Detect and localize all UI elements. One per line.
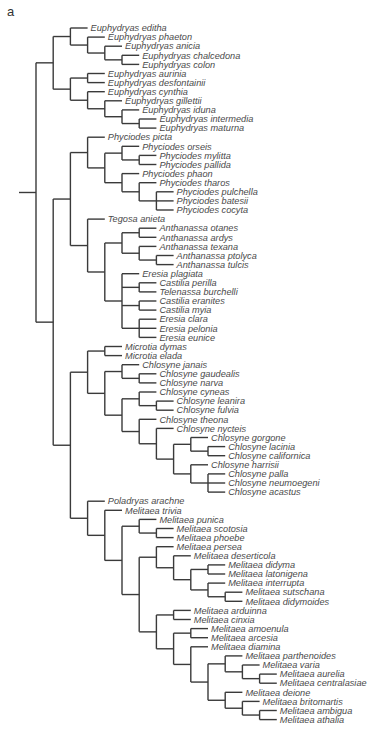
tip-labels: Euphydryas edithaEuphydryas phaetonEuphy… — [91, 23, 367, 725]
taxon-label: Melitaea athalia — [280, 715, 344, 725]
taxon-label: Phyciodes cocyta — [177, 205, 249, 215]
taxon-label: Tegosa anieta — [108, 214, 165, 224]
phylogenetic-tree: Euphydryas edithaEuphydryas phaetonEuphy… — [0, 0, 382, 740]
taxon-label: Chlosyne acastus — [228, 487, 301, 497]
